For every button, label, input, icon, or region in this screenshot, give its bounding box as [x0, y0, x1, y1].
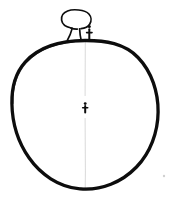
figure-on-globe-head	[88, 25, 91, 28]
canvas-background	[0, 0, 173, 198]
figure-center-head	[84, 102, 87, 105]
sketch-canvas: Hand-drawn sketch of a globe with a tree…	[0, 0, 173, 198]
stray-dot	[163, 175, 165, 177]
sketch-drawing	[0, 0, 173, 198]
